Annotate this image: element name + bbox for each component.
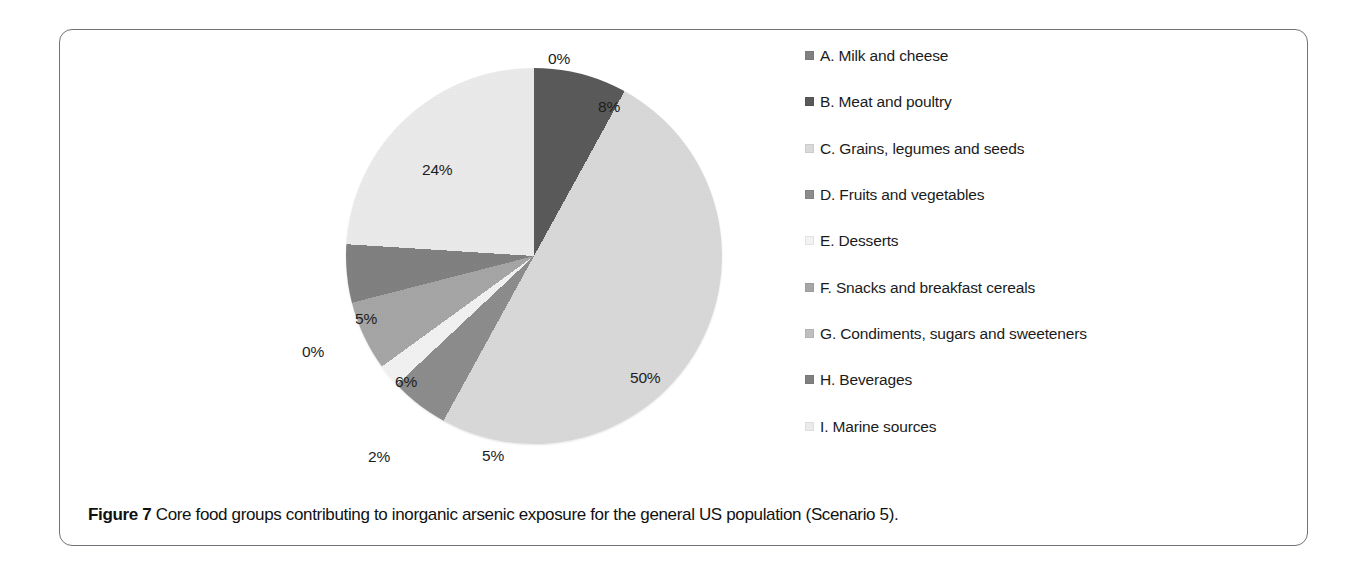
legend-item-d[interactable]: D. Fruits and vegetables <box>805 185 1135 205</box>
legend-item-label: D. Fruits and vegetables <box>820 185 984 205</box>
pie-label-i: 24% <box>422 161 452 179</box>
legend-item-i[interactable]: I. Marine sources <box>805 417 1135 437</box>
legend-item-label: H. Beverages <box>820 370 912 390</box>
pie-label-f: 6% <box>395 373 417 391</box>
legend-swatch-icon <box>805 97 814 106</box>
figure-caption-label: Figure 7 <box>88 505 151 524</box>
pie-chart: 0% 8% 50% 5% 2% 6% 0% 5% 24% <box>300 40 770 510</box>
figure-caption: Figure 7 Core food groups contributing t… <box>88 505 1288 525</box>
legend-item-label: B. Meat and poultry <box>820 92 952 112</box>
legend-swatch-icon <box>805 236 814 245</box>
legend-item-e[interactable]: E. Desserts <box>805 231 1135 251</box>
pie-label-b: 8% <box>598 98 620 116</box>
legend-swatch-icon <box>805 329 814 338</box>
legend-item-a[interactable]: A. Milk and cheese <box>805 46 1135 66</box>
figure-container: 0% 8% 50% 5% 2% 6% 0% 5% 24% A. Milk and… <box>0 0 1367 576</box>
legend-swatch-icon <box>805 190 814 199</box>
legend-swatch-icon <box>805 375 814 384</box>
legend-item-label: E. Desserts <box>820 231 898 251</box>
figure-caption-text: Core food groups contributing to inorgan… <box>156 505 899 524</box>
legend-swatch-icon <box>805 144 814 153</box>
legend-swatch-icon <box>805 51 814 60</box>
legend-item-f[interactable]: F. Snacks and breakfast cereals <box>805 278 1135 298</box>
pie-label-g: 0% <box>302 343 324 361</box>
legend-item-label: F. Snacks and breakfast cereals <box>820 278 1035 298</box>
legend-item-label: C. Grains, legumes and seeds <box>820 139 1024 159</box>
legend-item-g[interactable]: G. Condiments, sugars and sweeteners <box>805 324 1135 344</box>
legend-swatch-icon <box>805 283 814 292</box>
pie-label-a: 0% <box>548 50 570 68</box>
legend-item-h[interactable]: H. Beverages <box>805 370 1135 390</box>
legend-item-label: G. Condiments, sugars and sweeteners <box>820 324 1087 344</box>
legend-item-c[interactable]: C. Grains, legumes and seeds <box>805 139 1135 159</box>
pie-label-d: 5% <box>482 447 504 465</box>
pie-label-e: 2% <box>368 448 390 466</box>
legend-item-b[interactable]: B. Meat and poultry <box>805 92 1135 112</box>
legend-item-label: I. Marine sources <box>820 417 936 437</box>
pie-label-c: 50% <box>630 369 660 387</box>
legend-swatch-icon <box>805 422 814 431</box>
chart-legend: A. Milk and cheeseB. Meat and poultryC. … <box>805 46 1135 463</box>
legend-item-label: A. Milk and cheese <box>820 46 948 66</box>
pie-label-h: 5% <box>355 310 377 328</box>
